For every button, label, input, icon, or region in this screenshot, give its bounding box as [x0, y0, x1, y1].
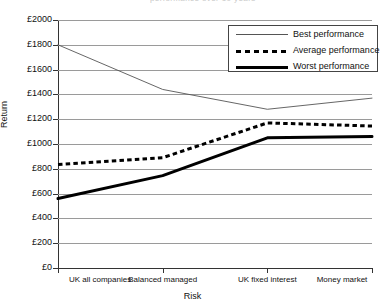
legend-item-average: Average performance — [229, 43, 377, 58]
y-axis-tick — [53, 94, 58, 95]
legend-label-worst: Worst performance — [293, 61, 369, 72]
y-axis-tick-label: £1800 — [6, 40, 52, 49]
legend-label-average: Average performance — [293, 45, 379, 56]
y-axis-tick-label: £1600 — [6, 65, 52, 74]
chart-figure: performance over 10 years Return £2000£1… — [0, 0, 385, 308]
gridline — [58, 119, 372, 120]
y-axis-tick — [53, 70, 58, 71]
y-axis-tick-label: £800 — [6, 164, 52, 173]
gridline — [58, 94, 372, 95]
gridline — [58, 144, 372, 145]
gridline — [58, 243, 372, 244]
y-axis-tick — [53, 119, 58, 120]
y-axis-tick — [53, 45, 58, 46]
x-axis-tick — [372, 268, 373, 273]
y-axis-tick-label: £2000 — [6, 15, 52, 24]
legend-item-best: Best performance — [229, 27, 377, 42]
gridline — [58, 20, 372, 21]
y-axis-tick-label: £200 — [6, 238, 52, 247]
y-axis-tick — [53, 194, 58, 195]
legend-swatch-best — [236, 34, 288, 35]
chart-legend: Best performance Average performance Wor… — [228, 25, 378, 72]
y-axis-tick — [53, 218, 58, 219]
legend-swatch-worst — [236, 66, 288, 69]
legend-item-worst: Worst performance — [229, 59, 377, 74]
y-axis-tick-label: £1400 — [6, 89, 52, 98]
x-axis-title: Risk — [0, 291, 385, 301]
x-axis-tick-label: UK fixed interest — [238, 275, 297, 284]
x-axis-tick — [58, 268, 59, 273]
x-axis-tick — [163, 268, 164, 273]
legend-label-best: Best performance — [293, 29, 364, 40]
gridline — [58, 194, 372, 195]
x-axis-tick-label: Balanced managed — [128, 275, 197, 284]
legend-swatch-average — [236, 50, 288, 53]
y-axis-tick — [53, 243, 58, 244]
y-axis-tick-label: £1200 — [6, 114, 52, 123]
y-axis-tick — [53, 169, 58, 170]
x-axis-line — [58, 268, 372, 269]
x-axis-tick — [267, 268, 268, 273]
y-axis-tick — [53, 144, 58, 145]
gridline — [58, 218, 372, 219]
y-axis-tick-label: £600 — [6, 189, 52, 198]
x-axis-tick-label: UK all companies — [69, 275, 131, 284]
gridline — [58, 169, 372, 170]
y-axis-tick-label: £1000 — [6, 139, 52, 148]
y-axis-tick-label: £0 — [6, 263, 52, 272]
y-axis-tick — [53, 20, 58, 21]
y-axis-tick-label: £400 — [6, 213, 52, 222]
x-axis-tick-label: Money market — [317, 275, 368, 284]
